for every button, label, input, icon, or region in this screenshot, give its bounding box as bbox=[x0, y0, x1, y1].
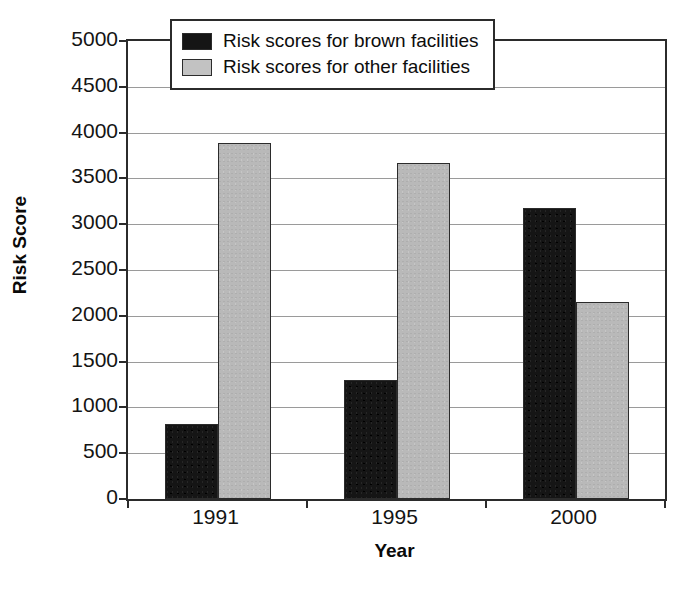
legend-item: Risk scores for brown facilities bbox=[182, 28, 479, 54]
gray-swatch-icon bbox=[182, 59, 212, 76]
y-axis-tick-label: 1000 bbox=[52, 394, 118, 415]
x-axis-tick-mark bbox=[485, 499, 487, 508]
bar-2000-series-0 bbox=[523, 208, 576, 499]
gridline bbox=[128, 133, 665, 134]
y-axis-tick-mark bbox=[119, 269, 128, 271]
y-axis-tick-mark bbox=[119, 315, 128, 317]
y-axis-tick-mark bbox=[119, 132, 128, 134]
y-axis-tick-label: 4000 bbox=[52, 120, 118, 141]
bar-chart: Risk Score 50004500400035003000250020001… bbox=[0, 0, 692, 592]
chart-legend: Risk scores for brown facilitiesRisk sco… bbox=[170, 19, 495, 90]
bar-1991-series-1 bbox=[218, 143, 271, 499]
y-axis-tick-label: 3500 bbox=[52, 165, 118, 186]
y-axis-tick-label: 4500 bbox=[52, 74, 118, 95]
x-axis-label: Year bbox=[126, 540, 663, 562]
y-axis-tick-label: 5000 bbox=[52, 28, 118, 49]
y-axis-tick-label: 500 bbox=[52, 440, 118, 461]
x-axis-tick-label: 1995 bbox=[335, 506, 455, 527]
x-axis-tick-label: 1991 bbox=[156, 506, 276, 527]
y-axis-tick-mark bbox=[119, 177, 128, 179]
legend-item-label: Risk scores for brown facilities bbox=[223, 30, 479, 52]
plot-area bbox=[126, 39, 667, 501]
bar-1991-series-0 bbox=[165, 424, 218, 499]
y-axis-tick-mark bbox=[119, 452, 128, 454]
y-axis-tick-mark bbox=[119, 223, 128, 225]
plot-inner bbox=[128, 41, 665, 499]
legend-item: Risk scores for other facilities bbox=[182, 54, 479, 80]
legend-item-label: Risk scores for other facilities bbox=[223, 56, 470, 78]
y-axis-tick-label: 1500 bbox=[52, 349, 118, 370]
y-axis-tick-label: 3000 bbox=[52, 211, 118, 232]
y-axis-tick-mark bbox=[119, 40, 128, 42]
x-axis-tick-mark bbox=[127, 499, 129, 508]
x-axis-tick-mark bbox=[664, 499, 666, 508]
y-axis-tick-label: 0 bbox=[52, 486, 118, 507]
y-axis-label: Risk Score bbox=[9, 185, 31, 305]
y-axis-tick-mark bbox=[119, 361, 128, 363]
bar-2000-series-1 bbox=[576, 302, 629, 499]
y-axis-tick-mark bbox=[119, 86, 128, 88]
y-axis-tick-label: 2500 bbox=[52, 257, 118, 278]
bar-1995-series-1 bbox=[397, 163, 450, 499]
x-axis-tick-label: 2000 bbox=[514, 506, 634, 527]
x-axis-tick-mark bbox=[306, 499, 308, 508]
y-axis-tick-mark bbox=[119, 406, 128, 408]
y-axis-tick-label: 2000 bbox=[52, 303, 118, 324]
black-swatch-icon bbox=[182, 33, 212, 50]
y-axis-tick-labels: 5000450040003500300025002000150010005000 bbox=[48, 0, 118, 592]
bar-1995-series-0 bbox=[344, 380, 397, 499]
